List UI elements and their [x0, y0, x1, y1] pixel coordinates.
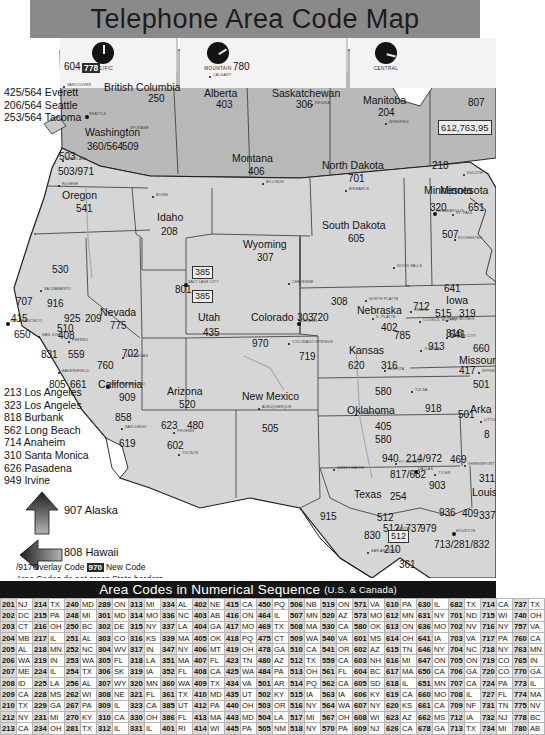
cell-state: TX [273, 621, 289, 632]
cell-state: WI [497, 610, 513, 621]
cell-code: 464 [257, 610, 273, 621]
city-label-san-jose: SAN JOSE [42, 334, 61, 338]
cell-code: 309 [97, 700, 113, 711]
cell-code: 601 [353, 632, 369, 643]
city-dot-fresno [68, 341, 70, 343]
cell-state: NY [497, 621, 513, 632]
cell-state: RI [177, 723, 193, 734]
city-dot-topeka [420, 350, 422, 352]
cell-code: 347 [161, 644, 177, 655]
cell-code: 336 [161, 610, 177, 621]
cell-code: 484 [257, 666, 273, 677]
cell-code: 229 [33, 700, 49, 711]
cell-code: 703 [449, 632, 465, 643]
map-label-623: 623 [161, 421, 178, 431]
cell-state: NJ [17, 599, 33, 610]
cell-code: 203 [1, 621, 17, 632]
map-label-307: 307 [257, 253, 274, 263]
cell-code: 773 [513, 678, 529, 689]
cell-state: OR [273, 700, 289, 711]
cell-state: NV [529, 700, 545, 711]
cell-code: 216 [33, 621, 49, 632]
cell-state: NJ [497, 711, 513, 722]
map-label-807: 807 [468, 98, 485, 108]
map-code-503: 503 [59, 152, 76, 162]
cell-code: 417 [225, 621, 241, 632]
cell-state: TX [529, 599, 545, 610]
table-row: 213CA234OH281TX312IL331IL401RI414WI445PA… [1, 723, 545, 734]
city-dot-oklahoma-city [355, 414, 357, 416]
map-code-713-281-832: 713/281/832 [434, 540, 490, 550]
cell-code: 682 [449, 599, 465, 610]
cell-code: 564 [321, 700, 337, 711]
cell-code: 312 [97, 723, 113, 734]
code-604-vancouver: 604 [64, 62, 81, 72]
cell-code: 206 [1, 655, 17, 666]
cell-state: VA [465, 632, 481, 643]
cell-state: NJ [369, 723, 385, 734]
city-label-fresno: FRESNO [72, 339, 88, 343]
cell-state: PA [241, 723, 257, 734]
cell-code: 519 [321, 599, 337, 610]
city-dot-san-diego [121, 428, 123, 430]
cell-state: MO [145, 610, 161, 621]
boxed-code-385-south: 385 [192, 290, 213, 303]
cell-code: 641 [417, 632, 433, 643]
cell-state: IL [401, 678, 417, 689]
cell-state: CA [337, 655, 353, 666]
cell-state: MD [113, 610, 129, 621]
cell-state: TX [465, 599, 481, 610]
cell-code: 254 [65, 666, 81, 677]
city-label-sweetwater: SWEETWATER [337, 467, 364, 471]
map-label-minnesota: Minnesota [440, 185, 488, 196]
cell-state: CO [113, 632, 129, 643]
cell-state: NY [305, 723, 321, 734]
map-label-311: 311 [479, 474, 495, 484]
cell-code: 734 [481, 723, 497, 734]
city-list-northwest: 425/564 Everett 206/564 Seattle 253/564 … [4, 86, 81, 124]
map-label-580: 580 [375, 435, 392, 445]
cell-state: OH [241, 644, 257, 655]
cell-code: 514 [289, 678, 305, 689]
cell-code: 509 [289, 632, 305, 643]
city-label-topeka: TOPEKA [424, 348, 440, 352]
new-code-778-vancouver: 778 [82, 63, 100, 73]
cell-code: 409 [193, 678, 209, 689]
city-dot-kansas-city [446, 337, 448, 339]
cell-state: MI [305, 711, 321, 722]
cell-code: 737 [513, 599, 529, 610]
clock-icon-central [375, 42, 397, 64]
city-label-sacramento: SACRAMENTO [44, 288, 71, 292]
cell-code: 450 [257, 599, 273, 610]
table-row: 202DC215PA248MI301MD314MO336NC403AB416ON… [1, 610, 545, 621]
cell-state: NC [465, 644, 481, 655]
cell-state: FL [209, 655, 225, 666]
cell-code: 262 [65, 689, 81, 700]
cell-code: 501 [257, 678, 273, 689]
cell-state: WV [113, 644, 129, 655]
cell-state: DC [17, 610, 33, 621]
cell-code: 715 [481, 610, 497, 621]
map-label-saskatchewan: Saskatchewan [272, 88, 340, 99]
cell-state: OK [209, 632, 225, 643]
map-label-218: 218 [432, 161, 449, 171]
map-label-719: 719 [299, 352, 316, 362]
cell-state: CA [17, 689, 33, 700]
map-label-559: 559 [68, 350, 85, 360]
city-label-sioux-falls: SIOUX FALLS [397, 265, 422, 269]
minneapolis-codes: 612,763,95 [441, 122, 489, 133]
cell-code: 724 [481, 678, 497, 689]
cell-state: WY [113, 678, 129, 689]
cell-state: IA [305, 689, 321, 700]
map-label-colorado: Colorado [251, 312, 294, 323]
cell-code: 651 [417, 678, 433, 689]
cell-state: OH [305, 666, 321, 677]
cell-state: AB [529, 723, 545, 734]
cell-code: 480 [257, 655, 273, 666]
arrow-label-hawaii: 808 Hawaii [64, 546, 118, 558]
cell-state: CA [465, 678, 481, 689]
cell-state: MI [81, 610, 97, 621]
cell-code: 561 [321, 666, 337, 677]
cell-state: NY [497, 644, 513, 655]
cell-state: PQ [273, 599, 289, 610]
